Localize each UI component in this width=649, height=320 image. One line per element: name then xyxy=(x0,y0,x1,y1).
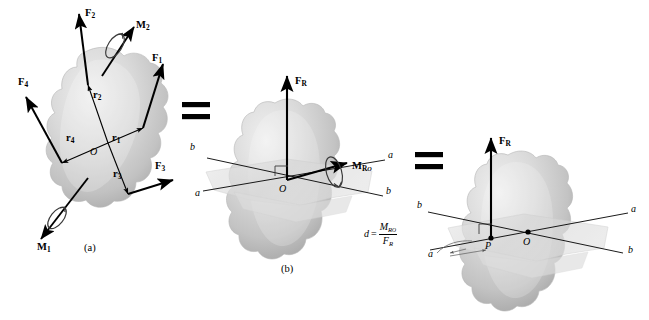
distance-equation: d= MRO FR xyxy=(364,222,397,247)
figure-canvas: F2 M2 F1 F4 F3 M1 r2 r1 r3 r4 O (a) FR M… xyxy=(0,0,649,320)
force-label-f4: F4 xyxy=(18,77,28,88)
force-label-f2: F2 xyxy=(85,8,95,19)
axis-label-a-upper-right-c: a xyxy=(631,204,636,214)
origin-label-c: O xyxy=(523,237,530,247)
origin-label-a: O xyxy=(90,147,97,157)
point-marker-o xyxy=(525,229,530,234)
axis-label-b-upper-left-c: b xyxy=(417,200,422,210)
panel-c-group xyxy=(428,138,628,311)
force-label-f3: F3 xyxy=(155,161,165,172)
position-label-r3: r3 xyxy=(113,169,121,180)
equals-sign-2 xyxy=(415,152,443,169)
axis-label-a-lower-left: a xyxy=(195,188,200,198)
resultant-force-label-b: FR xyxy=(295,76,307,87)
point-label-p: P xyxy=(485,241,491,251)
resultant-couple-label-b: MRO xyxy=(352,161,372,172)
distance-equation-numerator: MRO xyxy=(379,222,397,234)
panel-b-caption: (b) xyxy=(281,264,293,275)
position-label-r1: r1 xyxy=(112,133,120,144)
distance-equation-denominator: FR xyxy=(379,234,397,247)
panel-a-group xyxy=(26,14,173,239)
couple-label-m1: M1 xyxy=(37,242,51,253)
axis-label-b-upper-left: b xyxy=(190,142,195,152)
force-label-f1: F1 xyxy=(152,53,162,64)
position-label-r4: r4 xyxy=(66,133,74,144)
resultant-force-label-c: FR xyxy=(499,136,511,147)
axis-label-a-upper-right: a xyxy=(388,150,393,160)
origin-label-b: O xyxy=(279,184,286,194)
distance-equation-equals: = xyxy=(369,228,379,239)
couple-label-m2: M2 xyxy=(136,20,150,31)
equals-sign-1 xyxy=(182,102,210,119)
axis-label-b-lower-right: b xyxy=(386,186,391,196)
panel-a-caption: (a) xyxy=(84,243,96,254)
position-label-r2: r2 xyxy=(93,90,101,101)
axis-label-b-lower-right-c: b xyxy=(628,245,633,255)
figure-graphics xyxy=(0,0,649,320)
axis-label-a-lower-left-c: a xyxy=(428,249,433,259)
